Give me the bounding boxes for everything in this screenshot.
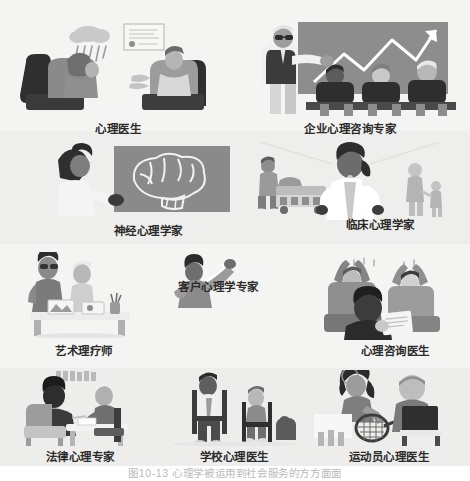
- label-art-therapist: 艺术理疗师: [14, 342, 154, 358]
- panel-legal-psychologist: [10, 370, 150, 446]
- label-legal-psychologist: 法律心理专家: [10, 448, 150, 464]
- label-counseling-doctor: 心理咨询医生: [320, 342, 470, 358]
- panel-school-psychologist: [164, 372, 304, 446]
- panel-neuropsychologist: [58, 140, 238, 220]
- panel-clinical-psychologist: [240, 142, 460, 220]
- panel-psychologist: [12, 16, 224, 116]
- label-psychologist: 心理医生: [12, 120, 224, 136]
- label-school-psychologist: 学校心理医生: [164, 448, 304, 464]
- label-sports-psychologist: 运动员心理医生: [314, 448, 464, 464]
- figure-caption: 图10-13 心理学被运用到社会服务的方方面面: [0, 466, 470, 481]
- panel-counseling-doctor: [308, 256, 460, 340]
- panel-art-therapist: [14, 252, 154, 338]
- infographic-poster: 心理医生: [0, 0, 470, 466]
- label-clinical-psychologist: 临床心理学家: [300, 216, 460, 232]
- label-neuropsychologist: 神经心理学家: [58, 222, 238, 238]
- panel-sports-psychologist: [314, 370, 464, 446]
- panel-corporate-consultant: [240, 16, 460, 116]
- label-corporate-consultant: 企业心理咨询专家: [240, 120, 460, 136]
